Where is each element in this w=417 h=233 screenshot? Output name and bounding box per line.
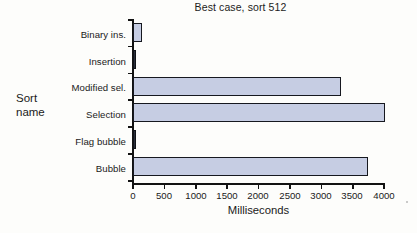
y-axis-title-line1: Sort <box>16 92 45 106</box>
x-tick-mark <box>195 183 197 189</box>
bar-row-bubble <box>133 153 384 180</box>
chart-title-text: Best case, sort 512 <box>195 1 287 13</box>
x-tick-mark <box>352 183 354 189</box>
category-label-bubble: Bubble <box>96 163 126 174</box>
bar-row-insertion <box>133 46 384 73</box>
x-tick-label-3500: 3500 <box>341 190 362 201</box>
y-axis-title-line2: name <box>16 106 45 120</box>
x-tick-mark <box>164 183 166 189</box>
x-tick-mark <box>226 183 228 189</box>
bar-row-modified-sel <box>133 73 384 100</box>
y-tick-mark <box>128 180 134 182</box>
bar-row-selection <box>133 99 384 126</box>
bar-selection <box>133 103 385 122</box>
category-label-insertion: Insertion <box>89 56 126 67</box>
bar-row-flag-bubble <box>133 126 384 153</box>
bar-binary-ins <box>133 23 142 42</box>
category-label-flag-bubble: Flag bubble <box>75 136 126 147</box>
x-tick-mark <box>321 183 323 189</box>
x-tick-label-2500: 2500 <box>279 190 300 201</box>
plot-area <box>133 22 384 183</box>
x-tick-label-4000: 4000 <box>373 190 394 201</box>
x-tick-label-1000: 1000 <box>185 190 206 201</box>
x-tick-mark <box>383 183 385 189</box>
bar-insertion <box>133 50 136 69</box>
x-tick-label-1500: 1500 <box>216 190 237 201</box>
y-axis-title: Sort name <box>16 92 45 119</box>
x-tick-label-0: 0 <box>130 190 135 201</box>
bar-row-binary-ins <box>133 19 384 46</box>
x-tick-label-3000: 3000 <box>310 190 331 201</box>
bar-bubble <box>133 157 368 176</box>
x-tick-label-2000: 2000 <box>247 190 268 201</box>
bar-flag-bubble <box>133 130 136 149</box>
category-label-modified-sel: Modified sel. <box>71 82 126 93</box>
chart-figure: Best case, sort 512 Sort name Binary ins… <box>0 0 417 233</box>
category-label-binary-ins: Binary ins. <box>81 29 126 40</box>
x-tick-mark <box>258 183 260 189</box>
bar-modified-sel <box>133 77 341 96</box>
x-tick-mark <box>132 183 134 189</box>
x-axis-title: Milliseconds <box>133 204 384 216</box>
chart-title: Best case, sort 512 <box>0 1 417 13</box>
x-tick-mark <box>289 183 291 189</box>
x-tick-label-500: 500 <box>156 190 172 201</box>
category-label-selection: Selection <box>86 109 126 120</box>
scan-artifact-speck <box>406 201 408 203</box>
